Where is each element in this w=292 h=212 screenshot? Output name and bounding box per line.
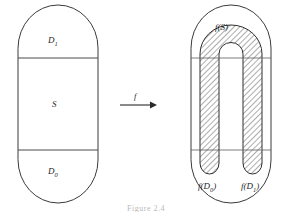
label-fd0: f(D0): [198, 181, 216, 193]
label-d1: D1: [47, 35, 58, 47]
arrow-head-icon: [150, 102, 157, 109]
label-map-f: f: [134, 91, 138, 101]
map-arrow-group: f: [120, 91, 157, 108]
domain-stadium-outline: [18, 5, 98, 203]
label-fs: f(S): [215, 22, 228, 32]
right-stadium-group: f(S) f(D0) f(D1): [191, 5, 271, 203]
horseshoe-clip-group: [200, 25, 262, 174]
left-stadium-group: D1 S D0: [18, 5, 98, 203]
horseshoe-band: [200, 25, 262, 174]
label-fd1: f(D1): [241, 181, 259, 193]
figure-container: D1 S D0 f f(S) f(D0) f(D1) Figure 2.4: [0, 0, 292, 212]
label-d0: D0: [47, 166, 59, 178]
horseshoe-map-diagram: D1 S D0 f f(S) f(D0) f(D1): [0, 0, 292, 212]
label-s: S: [52, 99, 57, 109]
figure-caption: Figure 2.4: [0, 202, 292, 212]
